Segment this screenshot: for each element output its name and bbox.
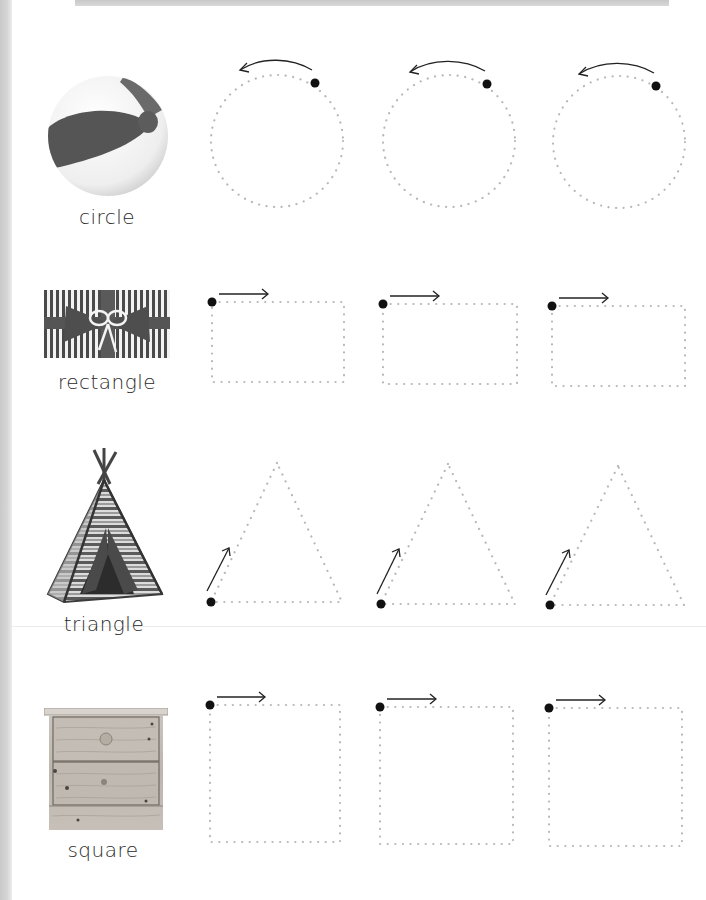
square-trace-1[interactable] <box>206 692 341 842</box>
square-trace-3[interactable] <box>545 695 683 846</box>
rectangle-trace-3[interactable] <box>548 293 686 386</box>
triangle-trace-1[interactable] <box>207 463 343 607</box>
rectangle-trace-1[interactable] <box>208 289 345 382</box>
teepee-tent-icon <box>44 444 172 604</box>
triangle-trace-3[interactable] <box>546 466 685 610</box>
triangle-trace-2[interactable] <box>377 464 516 609</box>
circle-trace-3[interactable] <box>553 63 685 208</box>
shape-label-triangle: triangle <box>34 612 174 636</box>
circle-trace-1[interactable] <box>211 60 343 207</box>
rectangle-trace-2[interactable] <box>379 291 518 384</box>
gift-box-icon <box>44 290 170 358</box>
circle-trace-2[interactable] <box>383 61 515 207</box>
square-trace-2[interactable] <box>376 694 514 844</box>
shape-label-square: square <box>33 838 173 862</box>
shape-label-rectangle: rectangle <box>37 370 177 394</box>
wooden-dresser-icon <box>44 708 168 830</box>
